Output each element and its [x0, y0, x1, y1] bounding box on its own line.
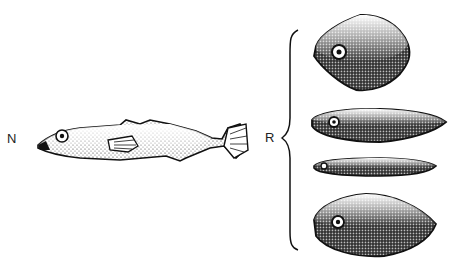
model-4: [314, 194, 436, 256]
model-3: [314, 158, 436, 176]
figure-canvas: [0, 0, 458, 273]
tail-fin: [224, 124, 248, 158]
model-1: [314, 15, 410, 90]
eye-icon: [321, 163, 327, 169]
brace: [282, 30, 298, 250]
natural-fish: [38, 120, 248, 161]
model-2: [312, 109, 446, 142]
